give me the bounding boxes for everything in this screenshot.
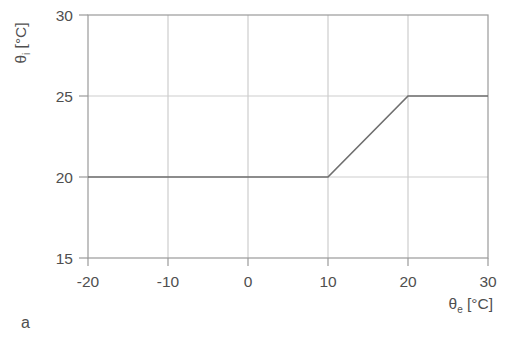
figure-label: a xyxy=(21,314,30,332)
y-tick-label: 20 xyxy=(56,169,74,186)
y-tick-label: 25 xyxy=(56,88,73,105)
x-axis-label: θe [°C] xyxy=(449,295,494,315)
x-tick-label: 0 xyxy=(244,273,253,290)
chart-figure: -20-10010203015202530θe [°C]θi [°C] a xyxy=(0,0,515,348)
x-tick-label: -20 xyxy=(77,273,100,290)
x-tick-label: 10 xyxy=(319,273,337,290)
y-tick-label: 30 xyxy=(56,7,74,24)
plot-border xyxy=(88,15,488,258)
x-tick-label: 20 xyxy=(399,273,417,290)
x-tick-label: 30 xyxy=(479,273,497,290)
data-line-setpoint-curve xyxy=(88,96,488,177)
line-chart: -20-10010203015202530θe [°C]θi [°C] xyxy=(0,0,515,348)
y-tick-label: 15 xyxy=(56,250,73,267)
y-axis-label: θi [°C] xyxy=(12,22,32,63)
x-tick-label: -10 xyxy=(157,273,180,290)
